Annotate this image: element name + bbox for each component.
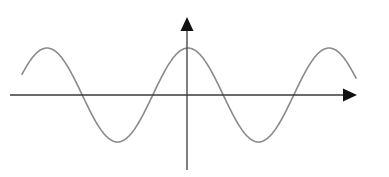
x-axis-arrowhead-icon	[343, 89, 357, 102]
cosine-graph	[0, 0, 389, 177]
y-axis-arrowhead-icon	[181, 17, 194, 31]
diagram-canvas	[0, 0, 389, 177]
